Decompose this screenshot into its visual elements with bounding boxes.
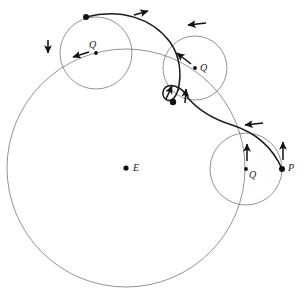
label-epicycle-center-2: Q (200, 63, 207, 73)
path-segment-outgoing (188, 98, 282, 169)
arrow-epicycle1-center (73, 52, 89, 57)
epicycle-center-dot-3 (244, 167, 248, 171)
arrow-loop-right (185, 89, 186, 103)
epicycle-diagram-svg (0, 0, 307, 297)
label-epicycle-center-1: Q (89, 40, 96, 50)
epicycle-center-dot-1 (94, 51, 98, 55)
label-center-E: E (133, 163, 139, 173)
epicycle-center-dot-2 (193, 66, 197, 70)
arrow-loop-left (166, 86, 172, 99)
planet-apparent-path (86, 14, 282, 169)
direction-arrows (48, 11, 283, 161)
planet-dot-loop (170, 99, 176, 105)
arrow-epicycle3-top (245, 123, 263, 125)
planet-dot-P (279, 166, 285, 172)
label-planet-P: P (288, 163, 294, 173)
planet-dot-start (83, 14, 89, 20)
label-epicycle-center-3: Q (249, 170, 256, 180)
center-dot-E (123, 165, 128, 170)
figure-canvas: E Q Q Q P (0, 0, 307, 297)
arrow-epicycle2-top (188, 23, 206, 25)
arrow-path-top (134, 11, 148, 15)
construction-circles (7, 17, 282, 287)
